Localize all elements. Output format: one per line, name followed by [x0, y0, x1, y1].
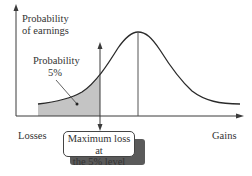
shaded-tail-area [38, 76, 100, 116]
y-axis-arrow-icon [14, 4, 19, 11]
tail-label-line2: 5% [33, 67, 77, 79]
gains-label: Gains [212, 130, 237, 142]
var-up-arrow-icon [98, 42, 103, 49]
tail-probability-label: Probability 5% [33, 55, 77, 79]
var-down-arrow-icon [98, 124, 103, 131]
var-diagram: Probability of earnings Probability 5% L… [0, 0, 252, 176]
y-axis-label-line2: of earnings [22, 25, 69, 37]
losses-label: Losses [18, 130, 47, 142]
y-axis-label: Probability of earnings [22, 13, 69, 37]
x-axis-arrow-icon [236, 114, 244, 119]
y-axis-label-line1: Probability [22, 13, 69, 25]
callout-line1: Maximum loss at [64, 133, 134, 156]
tail-label-line1: Probability [33, 55, 77, 67]
pointer-dot-icon [76, 103, 79, 106]
callout-line2: the 5% level [64, 156, 134, 168]
max-loss-callout: Maximum loss at the 5% level [63, 131, 135, 157]
